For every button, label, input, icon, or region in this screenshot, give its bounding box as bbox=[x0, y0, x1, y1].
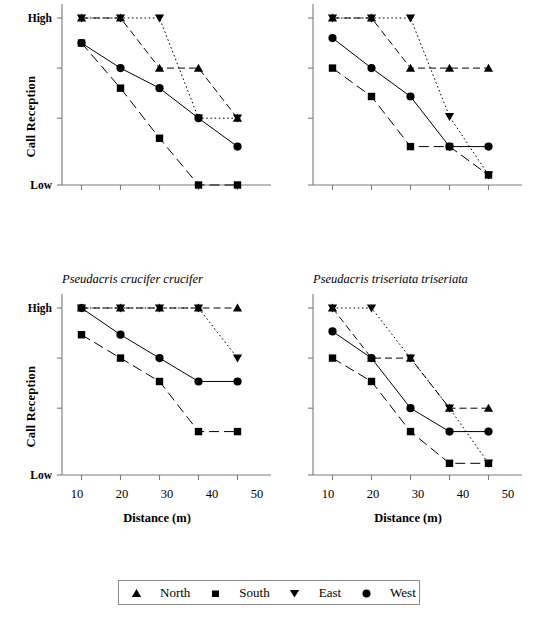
data-point-west-40 bbox=[445, 142, 453, 150]
data-point-west-50 bbox=[484, 142, 492, 150]
legend-entry-north: North bbox=[128, 585, 190, 601]
data-point-west-10 bbox=[77, 39, 85, 47]
data-point-south-10 bbox=[78, 331, 85, 338]
series-line-east bbox=[333, 308, 489, 463]
panel-top-left bbox=[57, 4, 271, 190]
data-point-east-50 bbox=[233, 355, 242, 363]
data-point-west-20 bbox=[367, 64, 375, 72]
data-point-east-30 bbox=[406, 14, 415, 22]
series-line-north bbox=[333, 18, 489, 68]
data-point-south-50 bbox=[234, 428, 241, 435]
data-point-south-40 bbox=[195, 428, 202, 435]
data-point-south-40 bbox=[446, 460, 453, 467]
triangle-down-icon bbox=[287, 588, 303, 598]
triangle-up-icon bbox=[128, 588, 144, 598]
circle-icon bbox=[358, 588, 374, 598]
data-point-west-30 bbox=[155, 84, 163, 92]
plot-canvas bbox=[0, 0, 537, 626]
data-point-west-10 bbox=[77, 304, 85, 312]
series-line-west bbox=[333, 331, 489, 431]
data-point-west-40 bbox=[445, 427, 453, 435]
legend-entry-west: West bbox=[358, 585, 416, 601]
data-point-north-50 bbox=[233, 304, 242, 312]
data-point-west-20 bbox=[367, 354, 375, 362]
data-point-west-10 bbox=[328, 327, 336, 335]
data-point-south-40 bbox=[195, 181, 202, 188]
series-line-west bbox=[333, 38, 489, 147]
data-point-east-30 bbox=[155, 14, 164, 22]
data-point-south-10 bbox=[329, 64, 336, 71]
series-line-west bbox=[82, 308, 238, 381]
legend-label-south: South bbox=[239, 585, 269, 601]
panel-bottom-right bbox=[308, 294, 522, 480]
data-point-south-50 bbox=[234, 181, 241, 188]
data-point-west-30 bbox=[155, 354, 163, 362]
series-line-west bbox=[82, 43, 238, 147]
data-point-west-30 bbox=[406, 92, 414, 100]
data-point-east-20 bbox=[367, 304, 376, 312]
data-point-west-40 bbox=[194, 114, 202, 122]
data-point-west-20 bbox=[116, 64, 124, 72]
data-point-south-30 bbox=[156, 378, 163, 385]
legend-entry-east: East bbox=[287, 585, 341, 601]
legend-label-west: West bbox=[390, 585, 416, 601]
legend: North South East West bbox=[118, 580, 420, 605]
square-icon bbox=[207, 588, 223, 598]
data-point-south-20 bbox=[368, 378, 375, 385]
data-point-west-30 bbox=[406, 404, 414, 412]
data-point-west-50 bbox=[233, 142, 241, 150]
panel-top-right bbox=[308, 4, 522, 190]
data-point-east-40 bbox=[445, 113, 454, 121]
data-point-west-40 bbox=[194, 377, 202, 385]
legend-label-north: North bbox=[160, 585, 190, 601]
data-point-west-50 bbox=[484, 427, 492, 435]
figure-root: Call Reception Call Reception High Low H… bbox=[0, 0, 537, 626]
data-point-south-30 bbox=[407, 143, 414, 150]
panel-bottom-left bbox=[57, 294, 271, 480]
data-point-south-10 bbox=[329, 354, 336, 361]
series-line-east bbox=[82, 308, 238, 358]
data-point-south-20 bbox=[117, 84, 124, 91]
data-point-west-20 bbox=[116, 331, 124, 339]
data-point-west-50 bbox=[233, 377, 241, 385]
data-point-south-30 bbox=[156, 135, 163, 142]
legend-entry-south: South bbox=[207, 585, 269, 601]
data-point-south-20 bbox=[117, 354, 124, 361]
data-point-south-30 bbox=[407, 428, 414, 435]
data-point-west-10 bbox=[328, 34, 336, 42]
series-line-south bbox=[333, 68, 489, 175]
data-point-south-20 bbox=[368, 93, 375, 100]
legend-label-east: East bbox=[319, 585, 341, 601]
